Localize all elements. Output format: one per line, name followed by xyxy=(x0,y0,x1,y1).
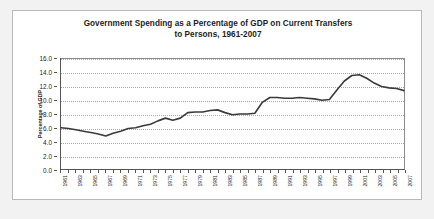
x-tick-mark xyxy=(128,170,129,173)
x-tick-mark xyxy=(225,170,226,173)
x-tick-mark xyxy=(405,170,406,173)
x-tick-mark xyxy=(353,170,354,173)
x-tick-label: 1995 xyxy=(317,175,323,187)
x-tick-label: 1989 xyxy=(272,175,278,187)
x-tick-mark xyxy=(368,170,369,173)
x-tick-mark xyxy=(270,170,271,173)
x-tick-label: 1961 xyxy=(62,175,68,187)
x-tick-mark xyxy=(300,170,301,173)
x-tick-mark xyxy=(203,170,204,173)
y-tick-label: 10.0 xyxy=(40,97,52,104)
y-tick-mark xyxy=(54,170,57,171)
x-tick-mark xyxy=(383,170,384,173)
x-tick-mark xyxy=(98,170,99,173)
x-tick-mark xyxy=(285,170,286,173)
x-tick-mark xyxy=(75,170,76,173)
x-tick-mark xyxy=(105,170,106,173)
x-tick-label: 1969 xyxy=(122,175,128,187)
x-tick-label: 1965 xyxy=(92,175,98,187)
x-tick-label: 1983 xyxy=(227,175,233,187)
y-tick-mark xyxy=(54,58,57,59)
x-axis: 1961196319651967196919711973197519771979… xyxy=(60,170,405,210)
x-tick-label: 1971 xyxy=(137,175,143,187)
x-tick-mark xyxy=(390,170,391,173)
x-tick-mark xyxy=(323,170,324,173)
x-tick-mark xyxy=(263,170,264,173)
x-tick-mark xyxy=(158,170,159,173)
x-tick-label: 1985 xyxy=(242,175,248,187)
x-tick-mark xyxy=(173,170,174,173)
y-tick-label: 0.0 xyxy=(43,167,52,174)
x-tick-mark xyxy=(315,170,316,173)
x-tick-mark xyxy=(233,170,234,173)
chart-title: Government Spending as a Percentage of G… xyxy=(29,18,407,40)
x-tick-mark xyxy=(360,170,361,173)
y-axis-tick-labels: 0.02.04.06.08.010.012.014.016.0 xyxy=(13,58,57,170)
x-tick-label: 1967 xyxy=(107,175,113,187)
x-tick-mark xyxy=(330,170,331,173)
y-tick-label: 8.0 xyxy=(43,111,52,118)
x-tick-mark xyxy=(210,170,211,173)
x-tick-mark xyxy=(278,170,279,173)
x-tick-label: 1993 xyxy=(302,175,308,187)
x-tick-label: 1981 xyxy=(212,175,218,187)
x-tick-mark xyxy=(308,170,309,173)
y-tick-label: 4.0 xyxy=(43,139,52,146)
y-tick-mark xyxy=(54,128,57,129)
x-tick-mark xyxy=(293,170,294,173)
x-tick-label: 2005 xyxy=(392,175,398,187)
x-tick-label: 2001 xyxy=(362,175,368,187)
series-line xyxy=(61,59,404,169)
x-tick-mark xyxy=(398,170,399,173)
y-tick-label: 12.0 xyxy=(40,83,52,90)
x-tick-mark xyxy=(218,170,219,173)
x-tick-mark xyxy=(180,170,181,173)
y-tick-mark xyxy=(54,72,57,73)
y-tick-mark xyxy=(54,100,57,101)
x-tick-label: 1975 xyxy=(167,175,173,187)
x-tick-label: 2003 xyxy=(377,175,383,187)
x-tick-label: 1991 xyxy=(287,175,293,187)
x-tick-mark xyxy=(188,170,189,173)
x-tick-label: 1973 xyxy=(152,175,158,187)
x-tick-label: 1977 xyxy=(182,175,188,187)
x-tick-mark xyxy=(90,170,91,173)
x-tick-label: 2007 xyxy=(407,175,413,187)
x-tick-mark xyxy=(83,170,84,173)
x-tick-mark xyxy=(255,170,256,173)
x-tick-mark xyxy=(68,170,69,173)
chart-figure: Government Spending as a Percentage of G… xyxy=(12,10,422,200)
y-tick-label: 16.0 xyxy=(40,55,52,62)
y-tick-mark xyxy=(54,86,57,87)
y-tick-label: 6.0 xyxy=(43,125,52,132)
y-tick-mark xyxy=(54,156,57,157)
x-tick-mark xyxy=(248,170,249,173)
plot-area xyxy=(60,58,405,170)
x-tick-label: 1963 xyxy=(77,175,83,187)
y-tick-mark xyxy=(54,142,57,143)
x-tick-label: 1999 xyxy=(347,175,353,187)
x-tick-mark xyxy=(120,170,121,173)
x-tick-label: 1979 xyxy=(197,175,203,187)
x-tick-mark xyxy=(135,170,136,173)
chart-title-line-1: Government Spending as a Percentage of G… xyxy=(29,18,407,29)
x-tick-mark xyxy=(345,170,346,173)
y-tick-label: 2.0 xyxy=(43,153,52,160)
x-tick-mark xyxy=(60,170,61,173)
x-tick-mark xyxy=(195,170,196,173)
x-tick-mark xyxy=(143,170,144,173)
x-tick-mark xyxy=(165,170,166,173)
x-tick-label: 1997 xyxy=(332,175,338,187)
y-tick-mark xyxy=(54,114,57,115)
x-tick-mark xyxy=(375,170,376,173)
x-tick-mark xyxy=(113,170,114,173)
x-tick-mark xyxy=(338,170,339,173)
series-polyline xyxy=(61,75,404,136)
x-tick-mark xyxy=(150,170,151,173)
x-tick-mark xyxy=(240,170,241,173)
x-tick-label: 1987 xyxy=(257,175,263,187)
chart-title-line-2: to Persons, 1961-2007 xyxy=(29,29,407,40)
y-tick-label: 14.0 xyxy=(40,69,52,76)
